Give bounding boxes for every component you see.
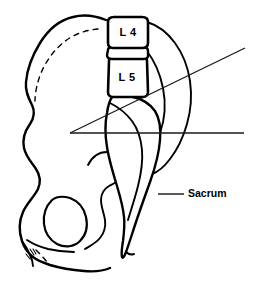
sacrum-label: Sacrum <box>188 187 227 199</box>
sacrum-group <box>106 96 161 258</box>
pelvis-diagram-svg: L 5 L 4 Sacrum <box>0 0 261 285</box>
vertebra-l5-label: L 5 <box>118 71 135 83</box>
obturator-foramen-group <box>44 197 87 247</box>
obturator-foramen <box>44 197 87 247</box>
vertebra-l4-group: L 4 <box>108 17 148 48</box>
vertebra-l5-group: L 5 <box>108 57 148 97</box>
sacrum-label-group: Sacrum <box>158 187 227 199</box>
coccyx-tip <box>126 252 134 254</box>
sacrum-bone <box>106 96 161 258</box>
vertebra-l4-label: L 4 <box>119 26 137 38</box>
anatomical-figure: L 5 L 4 Sacrum <box>0 0 261 285</box>
